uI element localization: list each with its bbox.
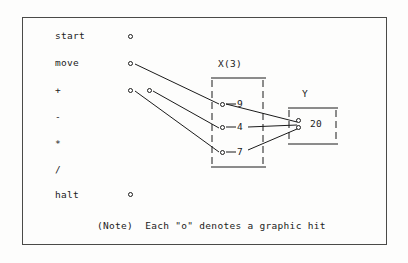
hit-marker-plus-a: [128, 88, 133, 93]
outer-frame: [22, 17, 387, 245]
array-y-label: Y: [302, 89, 308, 99]
operation-label-multiply: *: [55, 139, 61, 149]
operation-label-plus: +: [55, 85, 61, 95]
hit-marker-move: [128, 61, 133, 66]
array-x-cell-2-value: 7: [237, 147, 243, 157]
array-x-cell-0-value: 9: [237, 99, 243, 109]
hit-marker-x-cell-1: [220, 125, 225, 130]
hit-marker-y-cell-top: [296, 118, 301, 123]
hit-marker-plus-b: [147, 88, 152, 93]
hit-marker-y-cell-bottom: [296, 125, 301, 130]
hit-marker-start: [128, 34, 133, 39]
operation-label-move: move: [55, 58, 79, 68]
operation-label-halt: halt: [55, 190, 79, 200]
diagram-canvas: start move + - * / halt X(3) 9 4 7 Y 20 …: [0, 0, 408, 263]
array-y-cell-0-value: 20: [310, 119, 322, 129]
hit-marker-x-cell-2: [220, 150, 225, 155]
operation-label-start: start: [55, 31, 85, 41]
hit-marker-halt: [128, 192, 133, 197]
hit-marker-x-cell-0: [220, 102, 225, 107]
array-x-cell-1-value: 4: [237, 122, 243, 132]
note-caption: (Note) Each "o" denotes a graphic hit: [97, 220, 326, 231]
operation-label-minus: -: [55, 112, 61, 122]
operation-label-divide: /: [55, 165, 61, 175]
array-x-label: X(3): [218, 59, 242, 69]
